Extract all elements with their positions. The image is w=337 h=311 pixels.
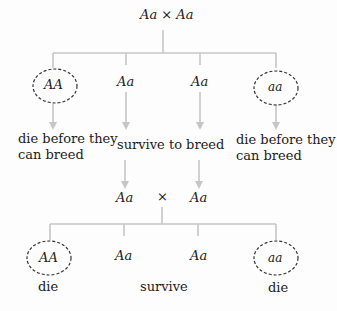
gen1-genotype-Aa-1: Aa [117, 74, 134, 89]
gen2-genotype-aa: aa [268, 251, 282, 265]
label-die-before-breed-left: die before they can breed [18, 131, 118, 163]
label-survive-to-breed: survive to breed [117, 137, 224, 153]
cross-symbol: × [157, 189, 168, 204]
cross2-left: Aa [116, 190, 133, 205]
gen1-genotype-Aa-2: Aa [191, 74, 208, 89]
cross2-right: Aa [190, 190, 207, 205]
inheritance-diagram: Aa × Aa AA Aa Aa aa die before they can … [0, 0, 337, 311]
gen2-genotype-Aa-1: Aa [115, 248, 132, 263]
gen2-genotype-Aa-2: Aa [190, 248, 207, 263]
label-die-left: die [38, 279, 58, 295]
top-cross: Aa × Aa [140, 7, 193, 22]
gen1-genotype-aa: aa [268, 80, 282, 94]
label-survive: survive [140, 279, 188, 295]
label-die-before-breed-right: die before they can breed [236, 132, 336, 164]
label-die-right: die [268, 280, 288, 296]
gen2-genotype-AA: AA [39, 250, 58, 265]
gen1-genotype-AA: AA [44, 77, 63, 92]
